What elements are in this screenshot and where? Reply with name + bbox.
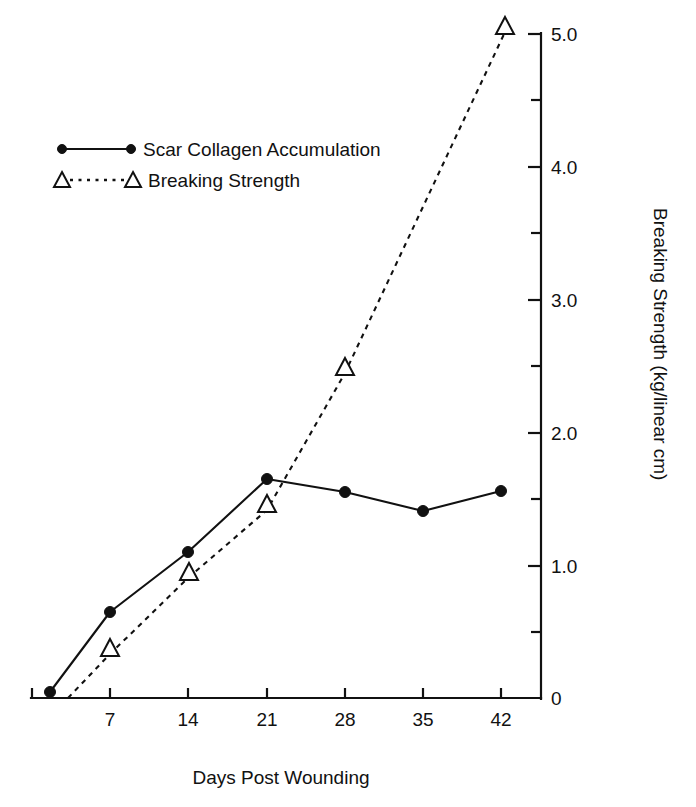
y-tick-label-0: 0 xyxy=(551,688,562,709)
x-tick-label-7: 7 xyxy=(105,709,116,730)
scar-collagen-marker xyxy=(183,547,194,558)
legend-open-triangle-icon xyxy=(125,172,141,187)
y-tick-label-2: 2.0 xyxy=(551,423,577,444)
breaking-strength-marker xyxy=(336,358,354,375)
legend-label-breaking-strength: Breaking Strength xyxy=(148,170,300,191)
x-tick-label-14: 14 xyxy=(177,709,199,730)
legend-item-breaking-strength: Breaking Strength xyxy=(54,170,300,191)
x-tick-label-21: 21 xyxy=(256,709,277,730)
scar-collagen-marker xyxy=(496,486,507,497)
y-tick-labels: 5.0 4.0 3.0 2.0 1.0 0 xyxy=(551,24,577,709)
series-scar-collagen xyxy=(45,474,507,698)
chart-figure: 5.0 4.0 3.0 2.0 1.0 0 7 14 21 28 35 42 D… xyxy=(0,0,696,807)
breaking-strength-marker xyxy=(258,495,276,512)
scar-collagen-marker xyxy=(262,474,273,485)
scar-collagen-marker xyxy=(340,487,351,498)
axis-group xyxy=(31,33,541,699)
y-major-ticks xyxy=(528,34,541,566)
x-tick-label-28: 28 xyxy=(334,709,355,730)
scar-collagen-marker xyxy=(105,607,116,618)
x-tick-labels: 7 14 21 28 35 42 xyxy=(105,709,512,730)
y-tick-label-1: 1.0 xyxy=(551,556,577,577)
y-tick-label-3: 3.0 xyxy=(551,290,577,311)
breaking-strength-marker xyxy=(496,17,514,34)
x-ticks xyxy=(110,688,501,698)
breaking-strength-marker xyxy=(180,563,198,580)
y-tick-label-4: 4.0 xyxy=(551,157,577,178)
legend-item-scar-collagen: Scar Collagen Accumulation xyxy=(58,139,381,160)
series-breaking-strength xyxy=(68,17,514,698)
legend-filled-circle-icon xyxy=(127,145,136,154)
scar-collagen-marker xyxy=(418,506,429,517)
scar-collagen-marker xyxy=(45,687,56,698)
breaking-strength-marker xyxy=(101,639,119,656)
x-axis-title: Days Post Wounding xyxy=(192,767,369,788)
legend-filled-circle-icon xyxy=(58,145,67,154)
line-chart: 5.0 4.0 3.0 2.0 1.0 0 7 14 21 28 35 42 D… xyxy=(0,0,696,807)
legend-label-scar-collagen: Scar Collagen Accumulation xyxy=(143,139,381,160)
legend-open-triangle-icon xyxy=(54,172,70,187)
y-tick-label-5: 5.0 xyxy=(551,24,577,45)
breaking-strength-line xyxy=(68,32,505,698)
y-axis-title: Breaking Strength (kg/linear cm) xyxy=(650,208,671,480)
chart-legend: Scar Collagen Accumulation Breaking Stre… xyxy=(54,139,381,191)
y-minor-ticks xyxy=(531,100,541,632)
x-tick-label-35: 35 xyxy=(412,709,433,730)
x-tick-label-42: 42 xyxy=(490,709,511,730)
